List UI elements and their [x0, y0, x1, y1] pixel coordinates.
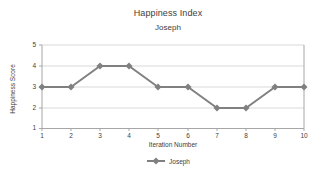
x-tick-label-6: 6 — [180, 132, 196, 140]
x-tick-label-10: 10 — [296, 132, 312, 140]
chart-container: Happiness Index Joseph Happiness Score I… — [0, 0, 336, 174]
x-tick-label-2: 2 — [63, 132, 79, 140]
x-tick-label-1: 1 — [34, 132, 50, 140]
x-tick-label-4: 4 — [121, 132, 137, 140]
chart-legend: Joseph — [0, 157, 336, 165]
x-tick-label-8: 8 — [238, 132, 254, 140]
y-tick-label-5: 5 — [22, 41, 36, 49]
legend-label-joseph: Joseph — [169, 158, 190, 165]
x-tick-label-3: 3 — [92, 132, 108, 140]
y-tick-label-4: 4 — [22, 62, 36, 70]
y-tick-label-3: 3 — [22, 83, 36, 91]
x-tick-label-5: 5 — [150, 132, 166, 140]
gridlines — [42, 45, 304, 108]
x-tick-label-9: 9 — [267, 132, 283, 140]
plot-area — [0, 0, 336, 174]
legend-marker-icon — [146, 157, 166, 165]
x-tick-label-7: 7 — [209, 132, 225, 140]
y-tick-label-2: 2 — [22, 104, 36, 112]
y-tick-label-1: 1 — [22, 124, 36, 132]
